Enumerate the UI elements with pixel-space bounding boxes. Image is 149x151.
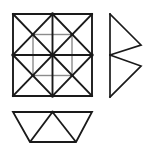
vertex-bottom-mid (51, 94, 54, 97)
vertex-left-mid (11, 53, 14, 56)
vertex-quadrant-bl (31, 74, 34, 77)
vertex-right-mid (90, 53, 93, 56)
trapezoid-apex-dot (51, 111, 54, 114)
vertex-top-mid (51, 12, 54, 15)
vertex-quadrant-tr (70, 33, 73, 36)
geometry-figure-svg (0, 0, 149, 151)
figure-canvas (0, 0, 149, 151)
vertex-quadrant-tl (31, 33, 34, 36)
subdivided-square (11, 12, 93, 97)
vertex-center (51, 53, 55, 57)
vertex-quadrant-br (70, 74, 73, 77)
